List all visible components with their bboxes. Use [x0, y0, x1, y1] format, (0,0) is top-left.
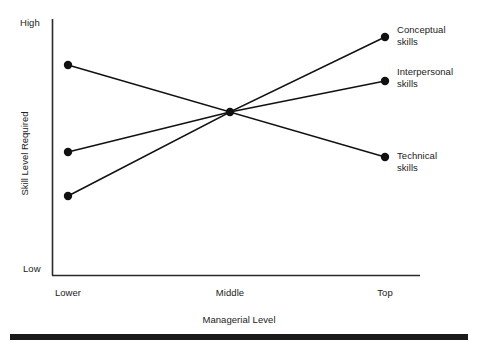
y-axis-title: Skill Level Required — [19, 94, 30, 214]
series-label-conceptual-line1: Conceptual — [397, 24, 478, 36]
series-interpersonal-line — [68, 81, 385, 152]
bottom-bar — [10, 334, 468, 340]
series-label-conceptual: Conceptual skills — [397, 24, 478, 47]
series-label-technical-line2: skills — [397, 162, 478, 174]
series-conceptual-line — [68, 37, 385, 112]
x-tick-top: Top — [350, 287, 420, 299]
series-label-interpersonal-line2: skills — [397, 78, 478, 90]
series-conceptual-skills — [64, 33, 389, 112]
x-tick-lower: Lower — [33, 287, 103, 299]
x-tick-middle: Middle — [195, 287, 265, 299]
series-label-technical-line1: Technical — [397, 150, 478, 162]
y-tick-low: Low — [23, 263, 41, 275]
series-label-interpersonal-line1: Interpersonal — [397, 66, 478, 78]
data-point-technical-top — [381, 153, 389, 161]
series-technical-line — [68, 112, 385, 196]
data-point-technical-lower — [64, 192, 72, 200]
series-label-technical: Technical skills — [397, 150, 478, 173]
series-label-interpersonal: Interpersonal skills — [397, 66, 478, 89]
data-point-middle-crossing — [226, 108, 234, 116]
y-tick-high: High — [20, 17, 40, 29]
data-point-interpersonal-lower — [64, 148, 72, 156]
chart-container: Skill Level Required High Low Lower Midd… — [0, 0, 478, 344]
x-axis-title: Managerial Level — [169, 314, 309, 326]
data-point-conceptual-top — [381, 33, 389, 41]
data-point-conceptual-lower — [64, 61, 72, 69]
series-technical-skills — [64, 112, 389, 200]
data-point-interpersonal-top — [381, 77, 389, 85]
series-label-conceptual-line2: skills — [397, 36, 478, 48]
